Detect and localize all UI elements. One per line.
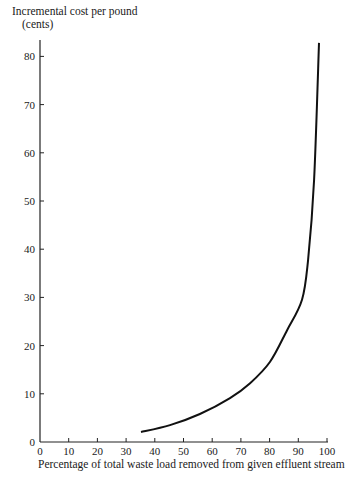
y-tick-label: 40 (24, 243, 36, 255)
x-tick-label: 40 (149, 445, 161, 457)
y-axis-unit: (cents) (22, 18, 53, 31)
x-ticks: 0102030405060708090100 (37, 438, 336, 457)
y-tick-label: 80 (24, 50, 36, 62)
x-axis-title: Percentage of total waste load removed f… (38, 458, 345, 471)
y-tick-label: 50 (24, 195, 36, 207)
y-tick-label: 60 (24, 147, 36, 159)
x-tick-label: 20 (92, 445, 104, 457)
x-tick-label: 100 (319, 445, 336, 457)
y-tick-label: 20 (24, 340, 36, 352)
x-tick-label: 80 (264, 445, 276, 457)
y-tick-label: 0 (30, 436, 36, 448)
axes (40, 40, 328, 442)
y-axis-title: Incremental cost per pound (12, 5, 138, 18)
y-tick-label: 70 (24, 99, 36, 111)
x-tick-label: 0 (37, 445, 43, 457)
x-tick-label: 10 (63, 445, 75, 457)
y-tick-label: 30 (24, 291, 36, 303)
series-line-incremental-cost (141, 43, 319, 432)
y-tick-label: 10 (24, 388, 36, 400)
chart: Incremental cost per pound (cents) 01020… (0, 0, 351, 486)
series (141, 43, 319, 432)
x-tick-label: 60 (207, 445, 219, 457)
x-tick-label: 50 (178, 445, 190, 457)
x-tick-label: 70 (235, 445, 247, 457)
y-ticks: 01020304050607080 (24, 50, 44, 448)
x-tick-label: 90 (293, 445, 305, 457)
x-tick-label: 30 (121, 445, 133, 457)
